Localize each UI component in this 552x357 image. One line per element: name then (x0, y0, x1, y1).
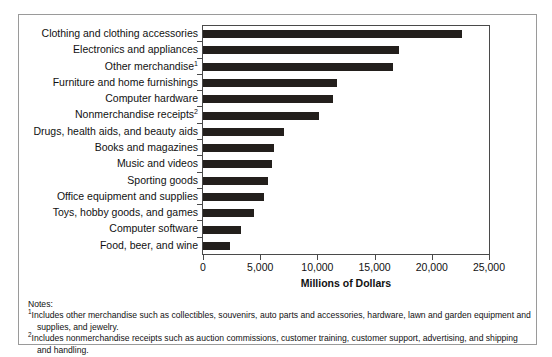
bar (203, 144, 274, 152)
category-tick (197, 155, 202, 156)
x-tick-label: 20,000 (416, 261, 448, 273)
notes-heading: Notes: (28, 299, 533, 310)
note-item: 2Includes nonmerchandise receipts such a… (28, 333, 533, 356)
bar (203, 160, 272, 168)
category-tick (197, 172, 202, 173)
bar (203, 46, 399, 54)
category-tick (197, 90, 202, 91)
note-item: 1Includes other merchandise such as coll… (28, 310, 533, 333)
category-label: Toys, hobby goods, and games (53, 204, 198, 220)
plot-area (202, 25, 490, 255)
x-tick (317, 255, 318, 260)
category-label: Other merchandise1 (105, 58, 198, 74)
x-tick (260, 255, 261, 260)
category-label: Computer software (109, 220, 198, 236)
category-tick (197, 220, 202, 221)
bars-layer (203, 26, 489, 254)
category-label: Music and videos (117, 155, 198, 171)
category-label: Furniture and home furnishings (53, 74, 198, 90)
category-label: Drugs, health aids, and beauty aids (33, 123, 198, 139)
category-tick (197, 74, 202, 75)
bar (203, 63, 393, 71)
x-axis-title: Millions of Dollars (202, 277, 490, 289)
bar (203, 79, 337, 87)
category-label: Books and magazines (95, 139, 198, 155)
bar (203, 193, 264, 201)
x-tick-label: 10,000 (301, 261, 333, 273)
x-tick (375, 255, 376, 260)
figure-box: Clothing and clothing accessoriesElectro… (18, 14, 537, 345)
category-tick (197, 58, 202, 59)
notes-list: 1Includes other merchandise such as coll… (28, 310, 533, 356)
x-tick (489, 255, 490, 260)
x-tick-label: 0 (200, 261, 206, 273)
bar (203, 209, 254, 217)
category-label: Food, beer, and wine (100, 237, 198, 253)
category-tick (197, 106, 202, 107)
category-label: Computer hardware (105, 90, 198, 106)
category-tick (197, 188, 202, 189)
x-tick-label: 15,000 (359, 261, 391, 273)
category-axis: Clothing and clothing accessoriesElectro… (19, 25, 202, 255)
x-tick (203, 255, 204, 260)
bar (203, 242, 230, 250)
category-tick (197, 139, 202, 140)
category-label: Office equipment and supplies (57, 188, 198, 204)
bar (203, 128, 284, 136)
category-tick (197, 204, 202, 205)
bar (203, 95, 333, 103)
category-label: Electronics and appliances (73, 41, 198, 57)
bar (203, 112, 319, 120)
bar-chart: Clothing and clothing accessoriesElectro… (19, 15, 538, 267)
category-tick (197, 41, 202, 42)
note-text: Includes other merchandise such as colle… (32, 310, 531, 331)
footnote-marker: 2 (194, 108, 198, 115)
category-tick (197, 237, 202, 238)
category-label: Sporting goods (127, 172, 198, 188)
x-tick (432, 255, 433, 260)
category-tick (197, 123, 202, 124)
bar (203, 226, 241, 234)
x-tick-label: 25,000 (473, 261, 505, 273)
bar (203, 30, 462, 38)
category-label: Clothing and clothing accessories (42, 25, 198, 41)
note-text: Includes nonmerchandise receipts such as… (32, 333, 518, 354)
footnote-marker: 1 (194, 59, 198, 66)
notes-block: Notes: 1Includes other merchandise such … (28, 299, 533, 356)
category-label: Nonmerchandise receipts2 (75, 106, 198, 122)
bar (203, 177, 268, 185)
x-tick-label: 5,000 (247, 261, 273, 273)
